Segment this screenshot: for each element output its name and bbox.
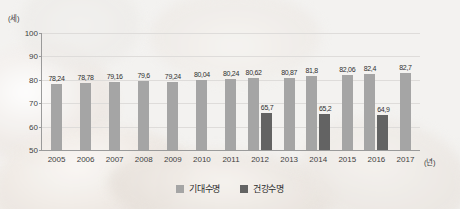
bar-life-expectancy[interactable] <box>167 82 178 150</box>
bar-life-expectancy[interactable] <box>225 79 236 150</box>
x-axis-tick-label: 2007 <box>106 155 124 164</box>
x-axis-tick-label: 2011 <box>222 155 239 164</box>
bar-slot: 82,464,92016 <box>362 33 391 150</box>
bar-value-label: 65,2 <box>319 105 331 112</box>
x-axis-tick-label: 2009 <box>164 155 182 164</box>
bar-slot: 79,62008 <box>129 33 158 150</box>
bar-value-label: 82,06 <box>339 66 355 73</box>
x-axis-tick-label: 2012 <box>251 155 269 164</box>
bar-value-label: 64,9 <box>377 106 389 113</box>
bar-value-label: 78,24 <box>49 75 65 82</box>
bar-life-expectancy[interactable] <box>284 78 295 150</box>
bar-value-label: 81,8 <box>306 67 318 74</box>
bar-life-expectancy[interactable] <box>80 83 91 150</box>
bar-life-expectancy[interactable] <box>51 84 62 150</box>
bar-healthy-life-expectancy[interactable] <box>261 113 272 150</box>
bar-value-label: 82,4 <box>364 65 376 72</box>
bar-slot: 80,6265,72012 <box>246 33 275 150</box>
bar-slot: 79,242009 <box>158 33 187 150</box>
bar-value-label: 80,24 <box>223 70 239 77</box>
bar-life-expectancy[interactable] <box>196 80 207 150</box>
legend-item[interactable]: 기대수명 <box>176 182 220 195</box>
x-axis-tick-label: 2005 <box>48 155 66 164</box>
x-axis-tick-label: 2017 <box>397 155 415 164</box>
legend-label: 기대수명 <box>189 182 220 195</box>
legend-item[interactable]: 건강수명 <box>240 182 284 195</box>
x-axis-tick-label: 2014 <box>309 155 327 164</box>
life-expectancy-bar-chart: (세) (년) 1009080706050 78,24200578,782006… <box>0 0 460 209</box>
x-axis-tick-label: 2015 <box>338 155 356 164</box>
x-axis-tick-label: 2010 <box>193 155 211 164</box>
bar-value-label: 79,6 <box>138 72 150 79</box>
bar-value-label: 79,24 <box>165 73 181 80</box>
bar-healthy-life-expectancy[interactable] <box>319 114 330 150</box>
x-axis-unit-label: (년) <box>424 156 435 167</box>
y-axis-tick-label: 100 <box>25 29 38 38</box>
bar-value-label: 79,16 <box>107 73 123 80</box>
bar-slot: 78,782006 <box>71 33 100 150</box>
bar-value-label: 65,7 <box>261 104 273 111</box>
bar-value-label: 78,78 <box>78 74 94 81</box>
y-axis-tick-label: 90 <box>29 52 38 61</box>
legend-color-swatch-icon <box>176 185 184 193</box>
bar-life-expectancy[interactable] <box>364 74 375 150</box>
chart-legend: 기대수명건강수명 <box>0 182 460 195</box>
y-axis-unit-label: (세) <box>8 12 19 23</box>
y-tick-mark <box>39 150 42 151</box>
bar-slot: 80,872013 <box>275 33 304 150</box>
bar-slot: 80,042010 <box>187 33 216 150</box>
y-axis-tick-label: 70 <box>29 99 38 108</box>
bar-value-label: 80,87 <box>281 69 297 76</box>
bar-value-label: 82,7 <box>399 64 411 71</box>
legend-label: 건강수명 <box>253 182 284 195</box>
bar-life-expectancy[interactable] <box>248 78 259 150</box>
bar-slot: 82,72017 <box>391 33 420 150</box>
bar-slot: 79,162007 <box>100 33 129 150</box>
bar-value-label: 80,04 <box>194 71 210 78</box>
y-axis-tick-label: 60 <box>29 122 38 131</box>
bar-value-label: 80,62 <box>246 69 262 76</box>
bar-slot: 78,242005 <box>42 33 71 150</box>
bar-life-expectancy[interactable] <box>400 73 411 150</box>
bar-life-expectancy[interactable] <box>138 81 149 150</box>
bar-slot: 81,865,22014 <box>304 33 333 150</box>
y-axis-tick-label: 80 <box>29 75 38 84</box>
bar-life-expectancy[interactable] <box>342 75 353 150</box>
plot-area: 1009080706050 78,24200578,78200679,16200… <box>41 33 420 151</box>
bar-slot: 80,242011 <box>216 33 245 150</box>
bar-life-expectancy[interactable] <box>306 76 317 150</box>
x-axis-tick-label: 2006 <box>77 155 95 164</box>
y-axis-tick-label: 50 <box>29 146 38 155</box>
x-axis-tick-label: 2008 <box>135 155 153 164</box>
x-axis-tick-label: 2013 <box>280 155 298 164</box>
bar-healthy-life-expectancy[interactable] <box>377 115 388 150</box>
bar-slot: 82,062015 <box>333 33 362 150</box>
x-axis-tick-label: 2016 <box>367 155 385 164</box>
bar-life-expectancy[interactable] <box>109 82 120 150</box>
legend-color-swatch-icon <box>240 185 248 193</box>
